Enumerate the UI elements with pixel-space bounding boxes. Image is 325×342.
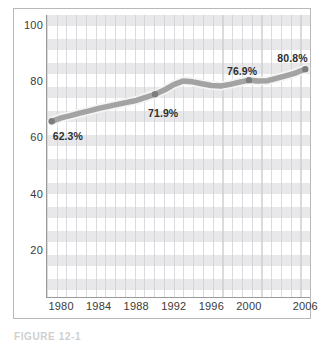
y-tick-label: 60 <box>30 132 43 143</box>
x-tick-label: 1988 <box>124 300 149 312</box>
data-label-2006: 80.8% <box>277 53 307 64</box>
data-point-marker <box>49 118 55 124</box>
x-tick-label: 1980 <box>48 300 73 312</box>
y-tick-label: 100 <box>24 20 43 31</box>
plot-area <box>47 15 310 297</box>
data-label-1990: 71.9% <box>148 108 178 119</box>
data-label-1979: 62.3% <box>53 131 83 142</box>
x-axis: 1980 1984 1988 1992 1996 2000 2006 <box>14 300 310 316</box>
data-point-marker <box>246 77 252 83</box>
y-axis: 100 80 60 40 20 <box>14 9 46 318</box>
figure-frame: 100 80 60 40 20 62.3% 71.9% 76.9% 80.8% … <box>13 8 311 319</box>
y-tick-label: 20 <box>30 245 43 256</box>
figure-caption: FIGURE 12-1 <box>14 331 81 342</box>
y-tick-label: 80 <box>30 76 43 87</box>
x-tick-label: 1992 <box>161 300 186 312</box>
data-point-marker <box>302 66 308 72</box>
x-tick-label: 1996 <box>199 300 224 312</box>
x-axis-line <box>46 297 310 298</box>
x-tick-label: 2000 <box>236 300 261 312</box>
x-tick-label: 1984 <box>86 300 111 312</box>
y-tick-label: 40 <box>30 189 43 200</box>
line-chart-svg <box>47 15 310 297</box>
x-tick-label: 2006 <box>293 300 318 312</box>
data-point-marker <box>152 91 158 97</box>
data-label-2000: 76.9% <box>227 66 257 77</box>
